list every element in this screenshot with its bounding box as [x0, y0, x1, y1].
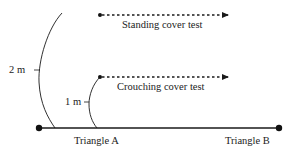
1m-height-label: 1 m — [65, 97, 81, 108]
triangle-b-label: Triangle B — [225, 136, 270, 147]
triangle-a-point — [36, 125, 42, 131]
2m-height-label: 2 m — [9, 65, 25, 76]
crouching-test-label: Crouching cover test — [117, 82, 204, 93]
cover-test-diagram: Standing cover test Crouching cover test… — [0, 0, 293, 153]
triangle-b-point — [276, 125, 282, 131]
standing-start-dot — [98, 13, 102, 17]
standing-height-arc — [39, 13, 62, 128]
crouching-start-dot — [98, 75, 102, 79]
standing-test-label: Standing cover test — [122, 20, 202, 31]
triangle-a-label: Triangle A — [74, 136, 119, 147]
crouching-height-arc — [89, 77, 100, 128]
